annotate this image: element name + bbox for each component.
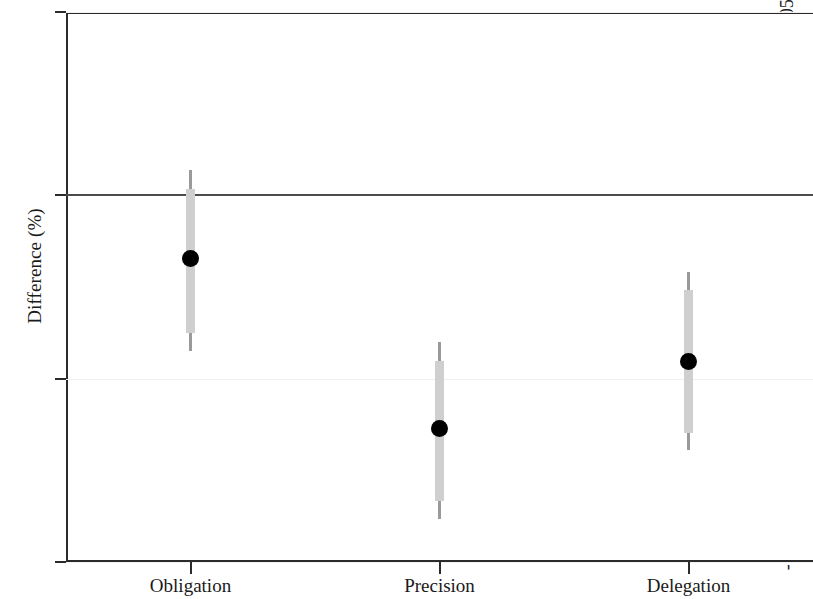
y-axis-tick [55,194,66,196]
y-axis-tick [55,561,66,563]
x-axis-tick [190,562,192,574]
data-point-marker [680,353,697,370]
zero-reference-line [66,194,813,196]
gridline [66,12,813,13]
data-point-marker [182,250,199,267]
coefficient-plot-figure: Difference (%) .05 0 -.05 -.1 Obligation… [0,0,813,599]
x-tick-label-delegation: Delegation [579,575,799,597]
y-axis-tick [55,11,66,13]
x-axis-tick [688,562,690,574]
plot-area [66,12,813,562]
x-tick-label-obligation: Obligation [81,575,301,597]
data-point-marker [431,420,448,437]
y-axis-title: Difference (%) [24,146,46,386]
x-tick-label-precision: Precision [330,575,550,597]
x-axis-tick [439,562,441,574]
y-axis-tick [55,378,66,380]
